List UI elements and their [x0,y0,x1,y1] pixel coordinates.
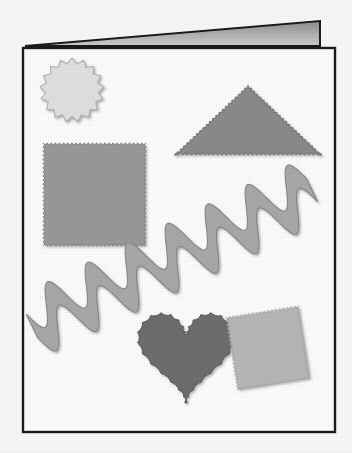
illustration-canvas [0,0,352,453]
card-illustration-scene [0,0,352,453]
shape-pinked-square [43,143,146,246]
shape-tilted-square [226,306,311,391]
shape-tilted-square-group [226,306,311,391]
